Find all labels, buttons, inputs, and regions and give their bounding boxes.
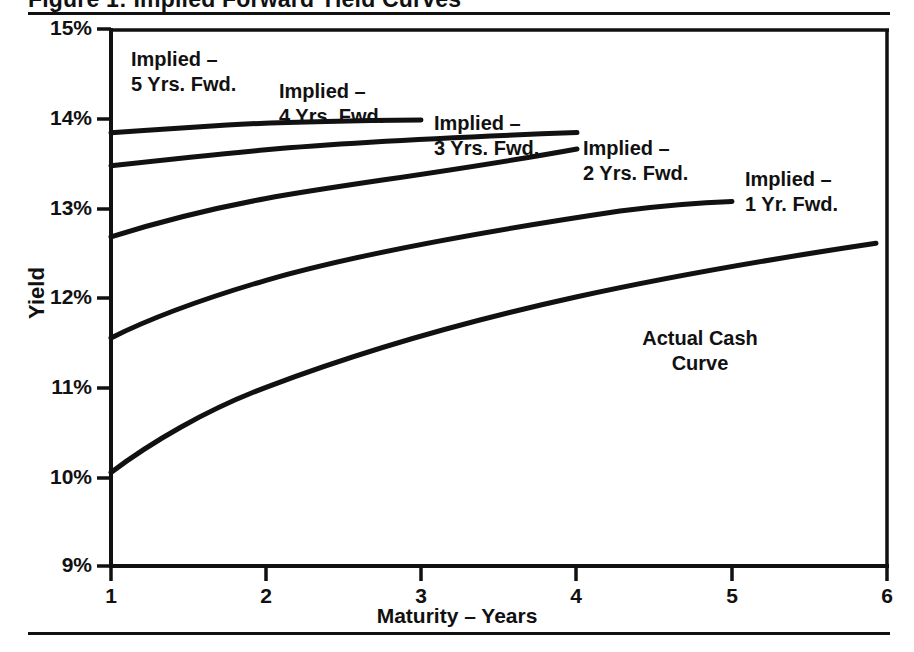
curve-implied-3yr — [111, 149, 577, 237]
y-tick-label-9: 9% — [14, 553, 92, 577]
annotation-implied-1yr: Implied – 1 Yr. Fwd. — [745, 167, 838, 217]
y-tick-label-14: 14% — [14, 106, 92, 130]
annotation-actual-cash-curve: Actual Cash Curve — [642, 326, 758, 376]
curve-actual-cash — [111, 243, 876, 472]
y-tick-label-13: 13% — [14, 196, 92, 220]
y-tick-label-11: 11% — [14, 375, 92, 399]
curve-implied-2yr — [111, 202, 732, 338]
y-tick-label-10: 10% — [14, 465, 92, 489]
x-axis-ticks — [111, 566, 887, 581]
plot-frame — [109, 28, 889, 567]
yield-curve-plot — [0, 0, 914, 652]
annotation-implied-4yr: Implied – 4 Yrs. Fwd. — [279, 79, 384, 129]
x-axis-title: Maturity – Years — [0, 604, 914, 628]
figure-container: Figure 1: Implied Forward Yield Curves — [0, 0, 914, 652]
annotation-implied-3yr: Implied – 3 Yrs. Fwd. — [434, 111, 539, 161]
y-axis-ticks — [97, 29, 111, 566]
bottom-divider-rule — [28, 632, 890, 635]
annotation-implied-5yr: Implied – 5 Yrs. Fwd. — [131, 47, 236, 97]
y-axis-title: Yield — [24, 248, 50, 338]
y-tick-label-15: 15% — [14, 16, 92, 40]
annotation-implied-2yr: Implied – 2 Yrs. Fwd. — [583, 136, 688, 186]
